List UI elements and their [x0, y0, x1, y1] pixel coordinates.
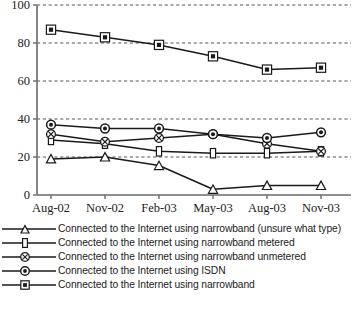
legend-marker-rectangle-icon: [0, 236, 58, 250]
data-point-circle-dot-core: [265, 136, 269, 140]
data-point-square-core: [157, 43, 161, 47]
y-axis-tick-label: 0: [24, 188, 30, 202]
data-point-circle-dot-core: [157, 127, 161, 131]
data-point-square-core: [211, 54, 215, 58]
legend-marker-circle-x-icon: [0, 250, 58, 264]
data-point-square-core: [319, 66, 323, 70]
x-axis-tick-label: Nov-02: [86, 201, 124, 215]
data-point-square-core: [49, 28, 53, 32]
figure-container: 020406080100Aug-02Nov-02Feb-03May-03Aug-…: [0, 0, 357, 319]
legend-label: Connected to the Internet using narrowba…: [58, 250, 306, 264]
y-axis-tick-label: 100: [11, 0, 30, 12]
data-point-rect: [264, 149, 269, 158]
legend-item-narrowband-unmetered: Connected to the Internet using narrowba…: [0, 250, 357, 264]
y-axis-tick-label: 20: [18, 150, 31, 164]
legend-item-narrowband: Connected to the Internet using narrowba…: [0, 278, 357, 292]
series-line: [51, 140, 321, 153]
data-point-circle-dot-core: [211, 132, 215, 136]
y-axis-tick-label: 40: [18, 112, 31, 126]
x-axis-tick-label: May-03: [193, 201, 233, 215]
y-axis-tick-label: 60: [18, 74, 31, 88]
legend-item-narrowband-unsure: Connected to the Internet using narrowba…: [0, 222, 357, 236]
data-point-square-core: [265, 68, 269, 72]
legend-label: Connected to the Internet using narrowba…: [58, 278, 255, 292]
legend-marker-filled-square-icon: [0, 278, 58, 292]
x-axis-tick-label: Aug-02: [32, 201, 70, 215]
series-4: [46, 25, 325, 74]
chart-plot-area: 020406080100Aug-02Nov-02Feb-03May-03Aug-…: [0, 0, 357, 218]
x-axis-tick-label: Nov-03: [302, 201, 340, 215]
data-point-circle-dot-core: [103, 127, 107, 131]
legend-item-narrowband-metered: Connected to the Internet using narrowba…: [0, 236, 357, 250]
chart-legend: Connected to the Internet using narrowba…: [0, 222, 357, 298]
data-point-circle-dot-core: [319, 130, 323, 134]
legend-label: Connected to the Internet using narrowba…: [58, 222, 341, 236]
data-point-circle-dot-core: [49, 123, 53, 127]
series-line: [51, 30, 321, 70]
legend-label: Connected to the Internet using narrowba…: [58, 236, 295, 250]
legend-label: Connected to the Internet using ISDN: [58, 264, 226, 278]
series-0: [46, 153, 325, 194]
legend-item-isdn: Connected to the Internet using ISDN: [0, 264, 357, 278]
line-chart-svg: 020406080100Aug-02Nov-02Feb-03May-03Aug-…: [0, 0, 357, 218]
x-axis-tick-label: Feb-03: [141, 201, 176, 215]
data-point-rect: [210, 149, 215, 158]
data-point-rect: [156, 147, 161, 156]
legend-marker-triangle-icon: [0, 222, 58, 236]
y-axis-tick-label: 80: [18, 36, 31, 50]
legend-marker-circle-dot-icon: [0, 264, 58, 278]
x-axis-tick-label: Aug-03: [248, 201, 286, 215]
data-point-square-core: [103, 35, 107, 39]
series-line: [51, 157, 321, 189]
